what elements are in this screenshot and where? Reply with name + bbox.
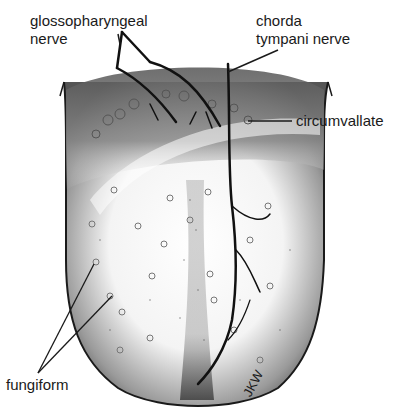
- label-circumvallate: circumvallate: [296, 112, 384, 130]
- label-fungiform: fungiform: [6, 376, 69, 394]
- label-chorda-tympani-nerve: chorda tympani nerve: [256, 12, 350, 48]
- leader-chorda: [228, 50, 278, 72]
- tongue-diagram: [0, 0, 396, 416]
- label-glossopharyngeal-nerve: glossopharyngeal nerve: [30, 12, 148, 48]
